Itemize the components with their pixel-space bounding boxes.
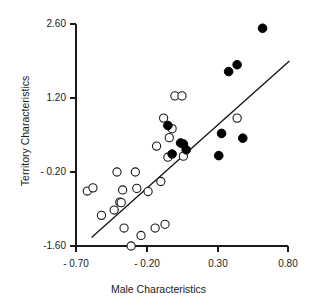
- data-point: [182, 146, 191, 155]
- y-axis-title: Territory Characteristics: [19, 41, 31, 221]
- x-tick-label-0.30: 0.30: [193, 258, 243, 269]
- data-point: [127, 242, 135, 250]
- x-tick-label-0.80: 0.80: [263, 258, 313, 269]
- data-point: [113, 168, 121, 176]
- data-point: [119, 186, 127, 194]
- y-tick-label-2.60: 2.60: [26, 18, 66, 29]
- data-point: [258, 24, 267, 33]
- data-point: [217, 129, 226, 138]
- data-point: [131, 168, 139, 176]
- data-point: [178, 92, 186, 100]
- data-point: [151, 224, 159, 232]
- data-point: [233, 114, 241, 122]
- data-points-filled: [164, 24, 267, 160]
- data-point: [97, 211, 105, 219]
- data-point: [161, 220, 169, 228]
- data-point: [168, 150, 177, 159]
- y-tick-label-1.20: 1.20: [26, 92, 66, 103]
- data-points-open: [83, 92, 241, 250]
- x-tick-label--0.70: - 0.70: [51, 258, 101, 269]
- data-point: [117, 199, 125, 207]
- data-point: [89, 184, 97, 192]
- data-point: [120, 224, 128, 232]
- data-point: [152, 142, 160, 150]
- data-point: [157, 177, 165, 185]
- data-point: [238, 134, 247, 143]
- data-point: [214, 151, 223, 160]
- data-point: [165, 134, 173, 142]
- scatter-plot-figure: 2.60 1.20 - 0.20 -1.60 - 0.70 - 0.20 0.3…: [0, 0, 317, 306]
- data-point: [110, 206, 118, 214]
- x-axis-title: Male Characteristics: [0, 283, 317, 295]
- data-point: [137, 231, 145, 239]
- y-tick-label--0.20: - 0.20: [26, 166, 66, 177]
- data-point: [133, 184, 141, 192]
- data-point: [144, 187, 152, 195]
- data-point: [233, 60, 242, 69]
- data-point: [164, 121, 173, 130]
- data-point: [224, 67, 233, 76]
- x-tick-label--0.20: - 0.20: [122, 258, 172, 269]
- y-tick-label--1.60: -1.60: [26, 240, 66, 251]
